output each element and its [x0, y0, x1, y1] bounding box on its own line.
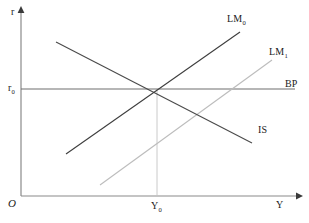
y-axis-arrowhead — [18, 6, 25, 13]
lm1-curve-label: LM1 — [269, 47, 288, 60]
y-axis-label: r — [11, 7, 15, 17]
bp-label-text: BP — [285, 78, 298, 89]
bp-curve-label: BP — [285, 79, 298, 89]
lm0-label-subscript: 0 — [242, 19, 246, 26]
plot-canvas — [0, 0, 309, 223]
isl m-bp-figure: LM0 LM1 BP IS r r0 O Y0 Y — [0, 0, 309, 223]
r0-tick-label: r0 — [8, 83, 15, 96]
lm1-label-subscript: 1 — [284, 52, 288, 59]
lm0-label-text: LM — [227, 13, 242, 24]
origin-label: O — [8, 198, 16, 209]
y0-label-subscript: 0 — [158, 206, 162, 213]
is-curve-label: IS — [258, 125, 267, 135]
x-axis-arrowhead — [296, 193, 303, 200]
is-label-text: IS — [258, 124, 267, 135]
lm0-curve — [66, 32, 240, 154]
r0-label-subscript: 0 — [12, 88, 16, 95]
y0-tick-label: Y0 — [151, 201, 162, 214]
lm0-curve-label: LM0 — [227, 14, 246, 27]
x-axis-label: Y — [276, 200, 283, 210]
lm1-label-text: LM — [269, 46, 284, 57]
lm1-curve — [100, 60, 272, 185]
